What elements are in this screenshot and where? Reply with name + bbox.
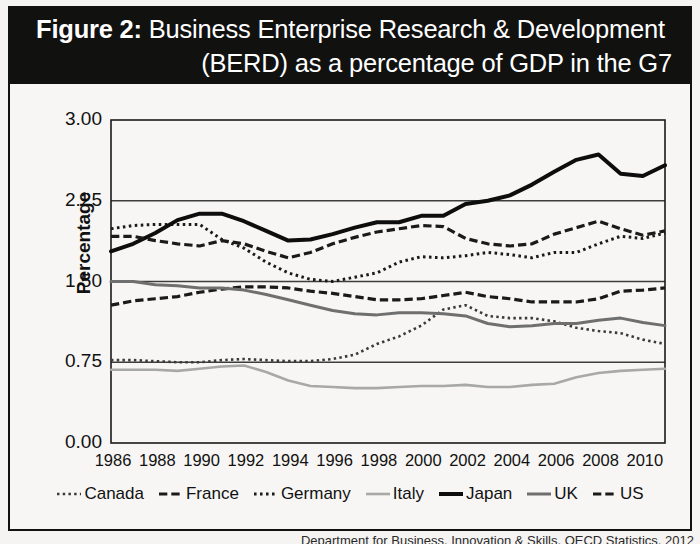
chart-legend: CanadaFranceGermanyItalyJapanUKUS: [12, 481, 688, 507]
legend-item-us[interactable]: US: [592, 484, 644, 504]
legend-item-uk[interactable]: UK: [526, 484, 578, 504]
legend-label: US: [620, 484, 644, 504]
legend-label: Japan: [466, 484, 512, 504]
legend-item-japan[interactable]: Japan: [438, 484, 512, 504]
figure-frame: [8, 84, 692, 531]
legend-item-canada[interactable]: Canada: [56, 484, 144, 504]
figure-title-text-1: Business Enterprise Research & Developme…: [149, 15, 665, 43]
legend-label: Germany: [281, 484, 351, 504]
legend-label: Italy: [393, 484, 424, 504]
legend-label: Canada: [84, 484, 144, 504]
legend-swatch-japan-icon: [438, 487, 464, 501]
legend-swatch-canada-icon: [56, 487, 82, 501]
figure-root: Figure 2: Business Enterprise Research &…: [0, 0, 700, 544]
source-note: Department for Business, Innovation & Sk…: [0, 533, 700, 544]
figure-number: Figure 2:: [36, 15, 142, 43]
figure-title-line-1: Figure 2: Business Enterprise Research &…: [22, 12, 678, 46]
legend-label: UK: [554, 484, 578, 504]
legend-swatch-germany-icon: [253, 487, 279, 501]
legend-swatch-france-icon: [158, 487, 184, 501]
legend-item-italy[interactable]: Italy: [365, 484, 424, 504]
legend-item-germany[interactable]: Germany: [253, 484, 351, 504]
legend-label: France: [186, 484, 239, 504]
legend-swatch-us-icon: [592, 487, 618, 501]
figure-title-line-2: (BERD) as a percentage of GDP in the G7: [22, 46, 678, 80]
legend-item-france[interactable]: France: [158, 484, 239, 504]
legend-swatch-uk-icon: [526, 487, 552, 501]
legend-swatch-italy-icon: [365, 487, 391, 501]
figure-title-banner: Figure 2: Business Enterprise Research &…: [8, 6, 692, 84]
